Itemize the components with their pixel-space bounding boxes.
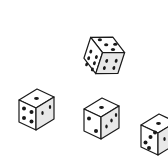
die-top <box>81 31 129 80</box>
die-center <box>84 98 119 139</box>
die-right-top-pips <box>156 122 161 125</box>
dice-illustration-canvas <box>0 0 168 167</box>
die-left-top-pips <box>34 97 39 100</box>
die-right <box>141 114 168 155</box>
die-center-top-pips <box>99 106 104 109</box>
die-left <box>19 89 54 130</box>
dice-scene-svg <box>0 0 168 167</box>
